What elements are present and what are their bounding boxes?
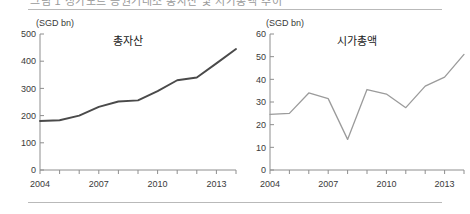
y-tick-label: 500 <box>21 29 36 39</box>
axes-total-assets <box>40 34 236 170</box>
series-line-market-cap <box>270 54 464 139</box>
y-tick-label: 400 <box>21 56 36 66</box>
tick-labels-market-cap: 01020304050602004200720102013 <box>256 29 455 189</box>
axes-market-cap <box>270 34 464 170</box>
x-tick-label: 2007 <box>318 179 338 189</box>
chart-market-cap: (SGD bn) 시가총액 01020304050602004200720102… <box>244 18 470 198</box>
series-line-total-assets <box>40 49 236 121</box>
clipped-caption: 그림 1 싱가포르 증권거래소 총자산 및 시가총액 추이 <box>0 0 470 7</box>
x-tick-label: 2007 <box>89 179 109 189</box>
plot-svg-total-assets: 01002003004005002004200720102013 <box>14 28 242 196</box>
y-tick-label: 0 <box>31 165 36 175</box>
top-divider <box>28 9 442 10</box>
x-tick-label: 2004 <box>30 179 50 189</box>
figure-container: 그림 1 싱가포르 증권거래소 총자산 및 시가총액 추이 (SGD bn) 총… <box>0 0 470 214</box>
y-tick-label: 10 <box>256 143 266 153</box>
x-tick-label: 2010 <box>148 179 168 189</box>
plot-area-market-cap: 01020304050602004200720102013 <box>244 28 470 196</box>
x-tick-label: 2013 <box>206 179 226 189</box>
x-tick-label: 2010 <box>376 179 396 189</box>
y-axis-unit-label: (SGD bn) <box>36 18 74 28</box>
y-tick-label: 100 <box>21 138 36 148</box>
bottom-divider <box>28 202 442 203</box>
y-tick-label: 0 <box>261 165 266 175</box>
x-tick-label: 2013 <box>435 179 455 189</box>
y-axis-unit-label: (SGD bn) <box>266 18 304 28</box>
y-tick-label: 30 <box>256 97 266 107</box>
y-tick-label: 60 <box>256 29 266 39</box>
tick-labels-total-assets: 01002003004005002004200720102013 <box>21 29 226 189</box>
y-tick-label: 300 <box>21 84 36 94</box>
x-tick-label: 2004 <box>260 179 280 189</box>
plot-svg-market-cap: 01020304050602004200720102013 <box>244 28 470 196</box>
y-tick-label: 40 <box>256 75 266 85</box>
y-tick-label: 20 <box>256 120 266 130</box>
y-tick-label: 200 <box>21 111 36 121</box>
clipped-caption-text: 그림 1 싱가포르 증권거래소 총자산 및 시가총액 추이 <box>30 0 282 7</box>
plot-area-total-assets: 01002003004005002004200720102013 <box>14 28 242 196</box>
y-tick-label: 50 <box>256 52 266 62</box>
ticks-total-assets <box>40 34 236 174</box>
chart-total-assets: (SGD bn) 총자산 010020030040050020042007201… <box>14 18 242 198</box>
